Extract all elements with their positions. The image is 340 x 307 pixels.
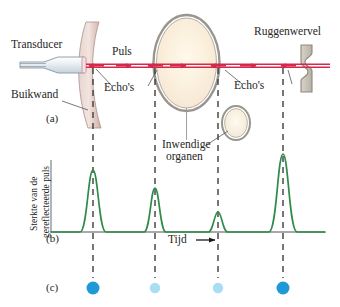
y-axis-label-line2: gereflecteerde puls	[41, 166, 51, 238]
pulse-label: Puls	[112, 45, 132, 57]
panel-b-label: (b)	[46, 233, 59, 245]
panel-c-label: (c)	[46, 282, 58, 294]
internal-organ-small-shape	[222, 106, 250, 140]
vertebra-label: Ruggenwervel	[254, 25, 321, 37]
echoes-label-right: Echo's	[234, 79, 264, 91]
internal-organs-label-line1: Inwendige	[162, 138, 211, 150]
echo-strength-graph	[51, 154, 325, 240]
figure-root: Transducer Buikwand (a) Puls Echo's Echo…	[0, 0, 340, 307]
abdominal-wall-label: Buikwand	[11, 88, 58, 100]
time-axis-label: Tijd	[168, 233, 187, 245]
y-axis-label-line1: Sterkte van de	[29, 177, 39, 231]
echo-dot-weak-2	[213, 283, 223, 293]
vertebra-shape	[301, 45, 312, 92]
panel-a-label: (a)	[46, 113, 58, 125]
internal-organs-label-line2: organen	[166, 150, 203, 162]
internal-organ-large-shape	[154, 15, 220, 140]
echo-dot-weak-1	[150, 283, 160, 293]
echo-dot-strong-1	[87, 282, 100, 295]
echo-dots-row	[87, 282, 290, 295]
echo-dot-strong-2	[277, 282, 290, 295]
abdominal-wall-shape	[79, 22, 101, 128]
echo-trace	[51, 154, 325, 232]
transducer-shape	[20, 57, 86, 73]
transducer-label: Transducer	[11, 38, 62, 50]
echoes-label-left: Echo's	[104, 81, 134, 93]
